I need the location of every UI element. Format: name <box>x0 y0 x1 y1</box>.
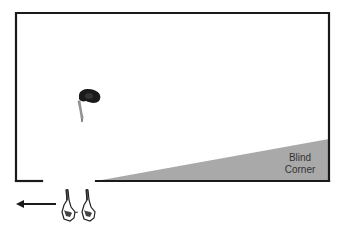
blind-corner-diagram: Blind Corner <box>0 0 346 231</box>
person-right-icon <box>82 189 95 221</box>
person-in-room-icon <box>78 89 100 122</box>
blind-corner-label-line2: Corner <box>285 164 316 175</box>
person-left-icon <box>62 189 75 221</box>
arrow-left-icon <box>16 200 56 208</box>
person-pair-icon <box>62 189 95 221</box>
blind-corner-label-line1: Blind <box>289 152 311 163</box>
